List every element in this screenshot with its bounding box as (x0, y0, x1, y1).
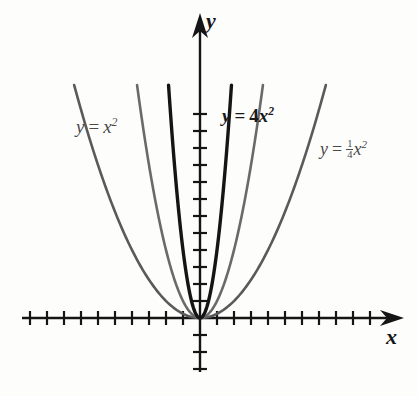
eq-sign: = (230, 105, 249, 126)
parabola-figure: y=x2 y=4x2 y=14x2 y x (0, 0, 418, 396)
plot-canvas (0, 0, 418, 396)
eq-sign: = (328, 139, 346, 159)
eq-exponent: 2 (268, 105, 274, 118)
eq-sign: = (84, 116, 103, 137)
equation-label-4x-squared: y=4x2 (222, 106, 274, 125)
equation-label-quarter-x-squared: y=14x2 (320, 139, 367, 162)
eq-exponent: 2 (112, 116, 118, 129)
x-axis-label: x (386, 326, 397, 348)
eq-coefficient: 4 (249, 105, 259, 126)
eq-base: x (259, 105, 269, 126)
fraction-one-quarter: 14 (346, 139, 353, 161)
eq-lhs: y (320, 139, 328, 159)
eq-exponent: 2 (361, 138, 367, 150)
fraction-denominator: 4 (346, 150, 353, 161)
equation-label-x-squared: y=x2 (76, 117, 117, 136)
eq-base: x (103, 116, 111, 137)
y-axis-label: y (206, 10, 216, 32)
